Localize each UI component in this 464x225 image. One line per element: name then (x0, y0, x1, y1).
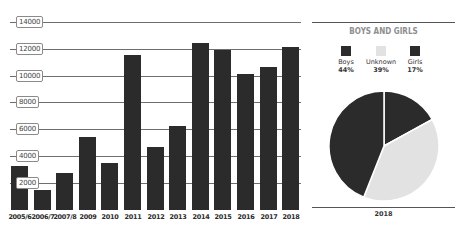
bar (34, 190, 51, 210)
gridline (10, 49, 301, 50)
bar (214, 50, 231, 210)
bar (79, 137, 96, 210)
legend-item-boys: Boys 44% (326, 46, 366, 74)
legend-swatch-girls (410, 46, 420, 56)
y-axis-tick-label: 2000 (16, 177, 39, 189)
y-axis-tick-label: 10000 (16, 70, 43, 82)
x-axis-label: 2010 (98, 213, 122, 221)
gridline (10, 129, 301, 130)
bar (237, 74, 254, 210)
x-axis-label: 2005/6 (8, 213, 32, 221)
pie-year-label: 2018 (312, 210, 455, 218)
x-axis-label: 2015 (211, 213, 235, 221)
y-axis-tick-label: 6000 (16, 123, 39, 135)
bar (147, 147, 164, 210)
legend-label-girls: Girls (395, 58, 435, 66)
legend-swatch-unknown (376, 46, 386, 56)
y-axis-tick-label: 4000 (16, 150, 39, 162)
pie-baseline (312, 207, 455, 208)
bar (192, 43, 209, 210)
legend-percent-girls: 17% (395, 66, 435, 74)
y-axis-tick-label: 8000 (16, 96, 39, 108)
x-axis-label: 2017 (257, 213, 281, 221)
pie-chart-panel: BOYS AND GIRLS Boys 44% Unknown 39% Girl… (312, 0, 456, 225)
x-axis-label: 2018 (279, 213, 303, 221)
x-axis-label: 2014 (189, 213, 213, 221)
x-axis-label: 2009 (76, 213, 100, 221)
legend-percent-boys: 44% (326, 66, 366, 74)
bar (124, 55, 141, 210)
bar (282, 47, 299, 210)
legend-swatch-boys (341, 46, 351, 56)
bar (56, 173, 73, 210)
x-axis-label: 2007/8 (53, 213, 77, 221)
legend-label-boys: Boys (326, 58, 366, 66)
y-axis-tick-label: 12000 (16, 43, 43, 55)
pie-top-divider (312, 22, 455, 23)
gridline (10, 22, 301, 23)
gridline (10, 102, 301, 103)
bar (101, 163, 118, 210)
bar (169, 126, 186, 210)
bar-chart: 20004000600080001000012000140002005/6200… (0, 0, 310, 225)
legend-item-girls: Girls 17% (395, 46, 435, 74)
x-axis-label: 2006/7 (31, 213, 55, 221)
pie-chart (326, 88, 442, 204)
x-axis-label: 2012 (144, 213, 168, 221)
x-axis-label: 2016 (234, 213, 258, 221)
pie-chart-title: BOYS AND GIRLS (323, 26, 445, 36)
bar (260, 67, 277, 210)
x-axis-label: 2013 (166, 213, 190, 221)
x-axis-label: 2011 (121, 213, 145, 221)
gridline (10, 76, 301, 77)
y-axis-tick-label: 14000 (16, 16, 43, 28)
